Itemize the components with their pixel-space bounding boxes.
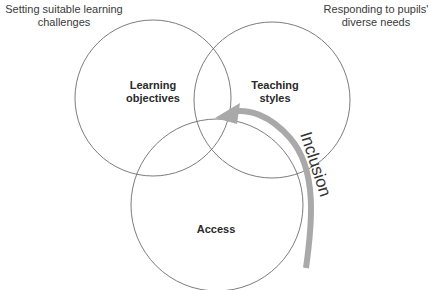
- arrowhead-icon: [215, 103, 240, 124]
- corner-label-top-right: Responding to pupils' diverse needs: [318, 3, 434, 29]
- label-teaching-styles: Teaching styles: [240, 79, 310, 105]
- corner-label-top-left: Setting suitable learning challenges: [2, 3, 126, 29]
- inclusion-arrow: [215, 103, 311, 268]
- circle-access: [131, 119, 303, 290]
- label-learning-objectives: Learning objectives: [100, 79, 206, 105]
- label-access: Access: [176, 223, 256, 236]
- venn-diagram: Inclusion: [0, 0, 436, 290]
